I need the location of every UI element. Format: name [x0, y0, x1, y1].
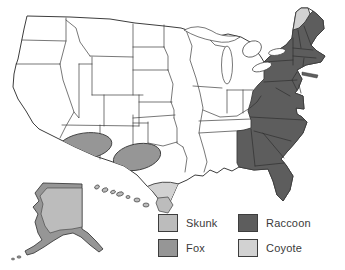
- raccoon-label: Raccoon: [266, 217, 311, 229]
- aleutian-island: [17, 256, 21, 258]
- hawaii-island: [143, 203, 149, 207]
- long-island: [302, 72, 318, 78]
- fox-region-arizona: [56, 129, 113, 162]
- hawaii-island: [94, 184, 100, 190]
- hawaii-island: [110, 190, 116, 195]
- raccoon-swatch: [238, 214, 258, 232]
- hawaii-island: [116, 191, 124, 197]
- alaska-interior-skunk: [40, 188, 82, 233]
- coyote-label: Coyote: [266, 242, 302, 254]
- lake-michigan: [222, 46, 233, 84]
- fox-label: Fox: [186, 242, 205, 254]
- skunk-swatch: [158, 214, 178, 232]
- alaska: [11, 183, 103, 260]
- legend-item-raccoon: Raccoon: [238, 214, 311, 232]
- fox-swatch: [158, 239, 178, 257]
- hawaii-island: [101, 187, 108, 193]
- rabies-species-distribution-map: Skunk Fox Raccoon Coyote: [0, 0, 345, 270]
- coyote-swatch: [238, 239, 258, 257]
- hawaii-island: [134, 198, 140, 202]
- hawaii-island: [126, 196, 130, 199]
- legend-item-coyote: Coyote: [238, 239, 302, 257]
- legend-item-fox: Fox: [158, 239, 205, 257]
- skunk-label: Skunk: [186, 217, 218, 229]
- aleutian-island: [11, 258, 14, 260]
- raccoon-region-east: [237, 11, 325, 201]
- legend-item-skunk: Skunk: [158, 214, 218, 232]
